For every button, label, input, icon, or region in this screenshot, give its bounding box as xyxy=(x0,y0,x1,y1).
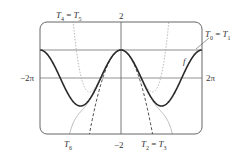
label-t2-t3: T2 = T3 xyxy=(141,140,167,151)
y-tick-top: 2 xyxy=(119,12,124,21)
label-t6: T6 xyxy=(64,140,72,151)
x-tick-right: 2π xyxy=(206,74,215,83)
y-tick-bottom: −2 xyxy=(114,141,124,150)
label-f: f xyxy=(183,57,186,66)
label-t4-t5: T4 = T5 xyxy=(56,11,82,22)
x-tick-left: −2π xyxy=(20,74,34,83)
plot-area xyxy=(40,0,209,157)
label-t0-t1: T0 = T1 xyxy=(205,30,231,41)
